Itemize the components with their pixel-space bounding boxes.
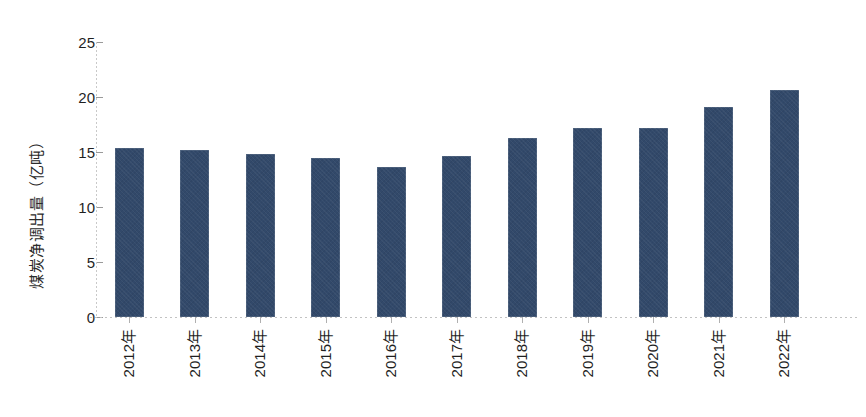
x-tick-label: 2017年	[448, 329, 466, 409]
y-axis-tick-labels: 0510152025	[55, 0, 95, 417]
x-tick-label: 2012年	[120, 329, 138, 409]
x-tick-label: 2018年	[513, 329, 531, 409]
y-axis-title: 煤炭净调出量（亿吨）	[22, 96, 48, 326]
x-tick-mark	[391, 317, 392, 323]
x-tick-label: 2019年	[579, 329, 597, 409]
bar[interactable]	[639, 128, 668, 317]
bar[interactable]	[573, 128, 602, 317]
bar[interactable]	[770, 90, 799, 317]
x-tick-label: 2020年	[644, 329, 662, 409]
x-tick-mark	[653, 317, 654, 323]
x-axis-baseline	[90, 317, 860, 318]
y-tick-label: 25	[55, 34, 95, 51]
bar[interactable]	[180, 150, 209, 317]
x-tick-mark	[129, 317, 130, 323]
bar[interactable]	[508, 138, 537, 317]
x-tick-label: 2013年	[186, 329, 204, 409]
bar[interactable]	[115, 148, 144, 317]
y-tick-label: 0	[55, 309, 95, 326]
bar[interactable]	[311, 158, 340, 318]
bar[interactable]	[377, 167, 406, 317]
bar-chart: 煤炭净调出量（亿吨） 0510152025 2012年2013年2014年201…	[0, 0, 866, 417]
x-tick-label: 2022年	[775, 329, 793, 409]
x-tick-mark	[784, 317, 785, 323]
bar[interactable]	[704, 107, 733, 317]
plot-area	[97, 42, 853, 317]
x-tick-label: 2014年	[251, 329, 269, 409]
bar[interactable]	[442, 156, 471, 317]
x-tick-label: 2015年	[317, 329, 335, 409]
y-tick-label: 10	[55, 199, 95, 216]
y-tick-label: 20	[55, 89, 95, 106]
x-tick-mark	[588, 317, 589, 323]
x-tick-mark	[195, 317, 196, 323]
x-tick-mark	[260, 317, 261, 323]
x-tick-label: 2016年	[382, 329, 400, 409]
y-tick-label: 5	[55, 254, 95, 271]
x-tick-mark	[522, 317, 523, 323]
x-tick-mark	[326, 317, 327, 323]
y-tick-label: 15	[55, 144, 95, 161]
x-tick-mark	[719, 317, 720, 323]
x-tick-mark	[457, 317, 458, 323]
bar[interactable]	[246, 154, 275, 317]
x-tick-label: 2021年	[710, 329, 728, 409]
